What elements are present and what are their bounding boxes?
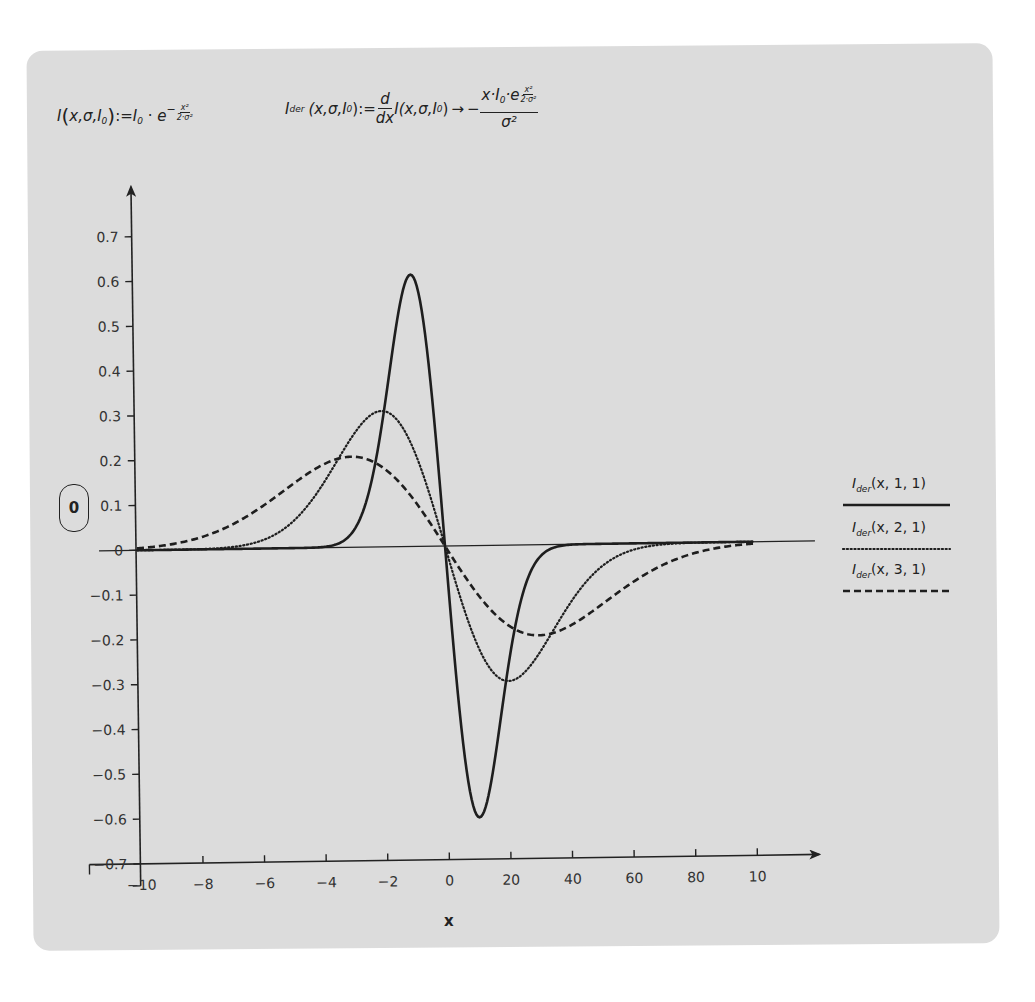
y-tick-label: 0.5 [98, 319, 120, 335]
y-tick-label: 0.7 [96, 229, 118, 245]
y-tick-label: −0.6 [93, 811, 127, 827]
x-tick-label: 10 [749, 868, 767, 884]
y-axis [131, 187, 141, 886]
y-tick-label: 0.2 [99, 453, 121, 469]
y-tick-label: 0.1 [100, 498, 122, 514]
curve-dotted [135, 406, 755, 686]
x-tick-label: 20 [502, 872, 520, 888]
x-tick-label: −8 [193, 876, 214, 892]
chart-group: 0.70.60.50.40.30.20.10−0.1−0.2−0.3−0.4−0… [80, 177, 820, 893]
y-tick-label: −0.3 [91, 677, 125, 693]
legend-label: Ider(x, 1, 1) [852, 475, 926, 494]
legend-label: Ider(x, 2, 1) [852, 519, 926, 538]
y-tick-label: −0.7 [93, 856, 127, 872]
legend-label: Ider(x, 3, 1) [852, 561, 926, 580]
y-tick-label: −0.1 [90, 587, 124, 603]
legend: Ider(x, 1, 1)Ider(x, 2, 1)Ider(x, 3, 1) [843, 475, 950, 591]
y-tick-label: −0.2 [90, 632, 124, 648]
x-tick-label: 60 [625, 870, 643, 886]
plot-area: 0.70.60.50.40.30.20.10−0.1−0.2−0.3−0.4−0… [0, 0, 1035, 1002]
y-tick-label: −0.4 [91, 722, 125, 738]
y-tick-label: 0.4 [98, 363, 121, 379]
x-tick-label: −10 [127, 877, 157, 893]
y-tick-label: 0 [114, 542, 123, 558]
x-axis-label: x [444, 912, 454, 930]
curves [133, 270, 757, 822]
x-tick-label: 40 [564, 871, 582, 887]
x-axis [89, 854, 819, 864]
x-tick-label: 0 [445, 873, 454, 889]
x-ticks: −10−8−6−4−202040608010 [127, 848, 767, 893]
y-tick-label: −0.5 [92, 766, 126, 782]
x-tick-label: −4 [316, 874, 337, 890]
x-tick-label: −2 [378, 873, 399, 889]
y-tick-label: 0.6 [97, 274, 120, 290]
x-tick-label: −6 [254, 875, 275, 891]
y-tick-label: 0.3 [99, 408, 121, 424]
x-tick-label: 80 [687, 869, 705, 885]
